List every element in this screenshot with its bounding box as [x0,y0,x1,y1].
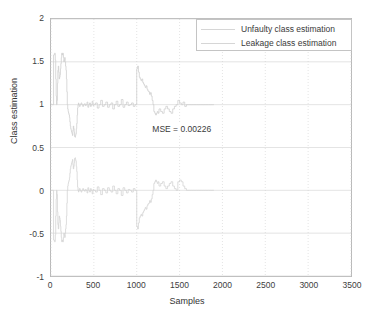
y-tick-label: 2 [0,14,44,23]
legend-swatch-unfaulty [201,29,235,30]
y-tick-label: -1 [0,273,44,282]
y-tick-label: 1.5 [0,57,44,66]
legend-swatch-leakage [201,43,235,44]
legend-item-unfaulty[interactable]: Unfaulty class estimation [201,22,347,36]
legend-label-leakage: Leakage class estimation [241,38,336,48]
x-tick-label: 500 [86,281,100,290]
series-line-leakage [51,158,214,242]
x-tick-label: 2500 [256,281,275,290]
y-tick-label: 1 [0,100,44,109]
mse-annotation: MSE = 0.00226 [150,123,213,135]
legend-label-unfaulty: Unfaulty class estimation [241,24,335,34]
legend-item-leakage[interactable]: Leakage class estimation [201,36,347,50]
x-tick-label: 1000 [127,281,146,290]
x-tick-label: 2000 [213,281,232,290]
plot-area [50,18,352,277]
x-tick-label: 0 [48,281,53,290]
data-series-layer [51,19,351,276]
x-tick-label: 3000 [299,281,318,290]
y-tick-label: 0 [0,186,44,195]
x-axis-title: Samples [0,296,374,306]
x-tick-label: 3500 [343,281,362,290]
y-tick-label: 0.5 [0,143,44,152]
legend[interactable]: Unfaulty class estimation Leakage class … [196,19,352,51]
y-tick-label: -0.5 [0,230,44,239]
chart-figure: -1-0.500.511.52 050010001500200025003000… [0,0,374,316]
y-axis-title: Class estimation [9,51,19,171]
x-tick-label: 1500 [170,281,189,290]
